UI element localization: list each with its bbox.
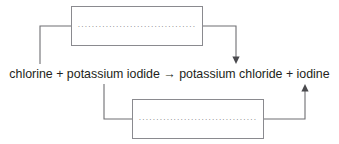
answer-box-bottom[interactable]: ·································· [132,99,264,139]
answer-box-top[interactable]: ·································· [71,6,203,46]
connector-top-right [203,26,236,58]
reaction-equation: chlorine + potassium iodide → potassium … [0,66,339,82]
arrow-up-icon [301,84,308,92]
blank-dotted-line-top: ·································· [78,23,196,30]
connector-top-left [40,26,71,64]
blank-dotted-line-bottom: ·································· [139,116,257,123]
reaction-diagram: ·································· ·····… [0,0,339,144]
connector-bottom-left [104,84,132,119]
arrow-down-icon [232,57,239,65]
connector-bottom-right [264,91,305,119]
